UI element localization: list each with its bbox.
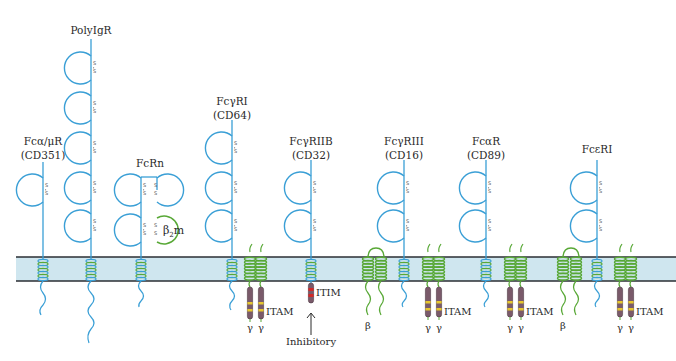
svg-text:S: S — [154, 230, 157, 236]
label-beta-fcgriii: β — [365, 320, 371, 331]
label-fca-mur-alias: (CD351) — [21, 148, 66, 162]
label-fcrn-name: FcRn — [136, 156, 164, 170]
inhibitory-arrow — [307, 313, 315, 335]
label-inhibitory: Inhibitory — [286, 336, 336, 347]
fc-receptor-diagram: S S — [0, 0, 676, 361]
label-fcgri: FcγRI (CD64) — [213, 94, 251, 122]
label-polyigr-name: PolyIgR — [70, 23, 111, 37]
receptor-fcrn: S S S S — [114, 174, 183, 307]
label-fcar: FcαR (CD89) — [467, 134, 505, 162]
svg-text:S: S — [154, 190, 157, 196]
label-gamma: γ — [247, 322, 253, 333]
receptor-fcar — [459, 160, 526, 320]
label-itam-fcgriii: ITAM — [444, 306, 472, 317]
label-fcgri-name: FcγRI — [213, 94, 251, 108]
label-itam-fcgri: ITAM — [266, 306, 294, 317]
receptor-fca-mur — [16, 162, 48, 315]
svg-text:S: S — [154, 182, 157, 188]
label-b2m-m: m — [174, 224, 184, 237]
label-gamma: γ — [436, 322, 442, 333]
label-itam-fceri: ITAM — [636, 306, 664, 317]
label-gamma: γ — [425, 322, 431, 333]
label-fcgriii-alias: (CD16) — [384, 148, 424, 162]
label-fcgriii-name: FcγRIII — [384, 134, 424, 148]
label-gamma: γ — [507, 322, 513, 333]
label-fcar-name: FcαR — [467, 134, 505, 148]
label-fcgriib: FcγRIIB (CD32) — [289, 134, 332, 162]
label-fcgri-alias: (CD64) — [213, 108, 251, 122]
label-beta-fceri: β — [560, 320, 566, 331]
label-fceri: FcεRI — [582, 142, 613, 156]
label-fcgriii: FcγRIII (CD16) — [384, 134, 424, 162]
label-fcrn: FcRn — [136, 156, 164, 170]
svg-text:S: S — [154, 222, 157, 228]
label-fca-mur: Fcα/μR (CD351) — [21, 134, 66, 162]
receptor-fcgri — [205, 120, 266, 322]
receptor-fcgriii — [363, 160, 445, 320]
label-fcgriib-alias: (CD32) — [289, 148, 332, 162]
label-fca-mur-name: Fcα/μR — [21, 134, 66, 148]
label-b2m: β2m — [163, 224, 184, 239]
label-gamma: γ — [617, 322, 623, 333]
label-fceri-name: FcεRI — [582, 142, 613, 156]
itim-tail — [308, 281, 313, 303]
label-polyigr: PolyIgR — [70, 23, 111, 37]
label-fcgriib-name: FcγRIIB — [289, 134, 332, 148]
label-gamma: γ — [258, 322, 264, 333]
label-gamma: γ — [628, 322, 634, 333]
label-itam-fcar: ITAM — [526, 306, 554, 317]
label-gamma: γ — [518, 322, 524, 333]
receptor-polyigr — [64, 39, 96, 343]
label-itim: ITIM — [316, 287, 341, 298]
label-fcar-alias: (CD89) — [467, 148, 505, 162]
receptor-fceri — [558, 160, 637, 320]
